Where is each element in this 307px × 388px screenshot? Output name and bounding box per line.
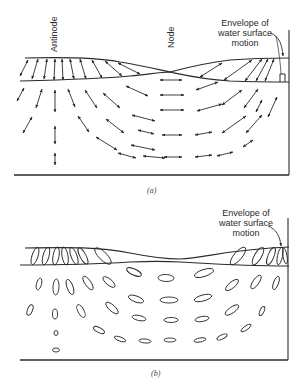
envelope-label-b-line3: motion	[205, 228, 287, 238]
subsurface-ellipses-b	[26, 266, 281, 352]
envelope-label-b-line2: water surface	[205, 218, 287, 228]
node-column-arrows-a	[160, 80, 184, 157]
wall-bracket-a	[280, 74, 285, 82]
panel-b	[20, 218, 289, 360]
envelope-label-b-line1: Envelope of	[205, 208, 287, 218]
envelope-label-a-line2: water surface	[204, 28, 286, 38]
envelope-label-a: Envelope of water surface motion	[204, 18, 286, 48]
surface-ellipses-right-b	[228, 245, 288, 267]
antinode-label: Antinode	[49, 16, 59, 52]
left-edge-arrows-a	[17, 88, 42, 133]
envelope-label-b: Envelope of water surface motion	[205, 208, 287, 238]
surface-envelope-lower-b	[20, 261, 289, 266]
subsurface-arrows-right-a	[195, 82, 277, 157]
caption-b: (b)	[151, 369, 160, 378]
envelope-label-a-line1: Envelope of	[204, 18, 286, 28]
surface-envelope-upper-b	[25, 247, 289, 259]
caption-a: (a)	[147, 186, 156, 195]
envelope-label-a-line3: motion	[204, 38, 286, 48]
surface-envelope-upper-a	[25, 58, 289, 72]
node-label: Node	[166, 26, 176, 48]
subsurface-arrows-left-a	[68, 86, 165, 158]
